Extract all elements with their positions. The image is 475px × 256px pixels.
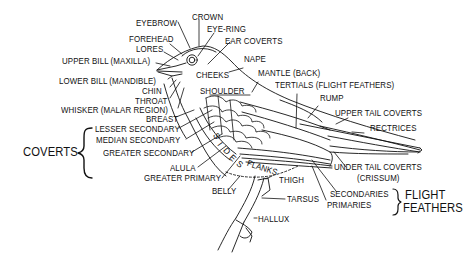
label-crown: CROWN [192, 12, 223, 22]
label-upper-bill: UPPER BILL (MAXILLA) [62, 56, 150, 66]
label-upper-tail-coverts: UPPER TAIL COVERTS [335, 108, 422, 118]
lower-bill [158, 72, 182, 76]
label-lesser-secondary: LESSER SECONDARY [95, 124, 180, 134]
label-breast: BREAST [146, 114, 178, 124]
group-label-feathers: FEATHERS [403, 202, 463, 215]
label-eye-ring: EYE-RING [207, 24, 246, 34]
label-greater-secondary: GREATER SECONDARY [103, 148, 194, 158]
label-thigh: THIGH [279, 175, 304, 185]
label-ear-coverts: EAR COVERTS [225, 36, 283, 46]
label-lower-bill: LOWER BILL (MANDIBLE) [59, 76, 156, 86]
label-crissum: (CRISSUM) [357, 173, 400, 183]
label-tarsus: TARSUS [287, 194, 319, 204]
label-secondaries: SECONDARIES [330, 189, 389, 199]
label-rump: RUMP [320, 93, 344, 103]
label-under-tail-coverts: UNDER TAIL COVERTS [334, 162, 422, 172]
group-label-coverts: COVERTS [23, 146, 78, 159]
flight-feathers-brace [393, 189, 401, 215]
label-nape: NAPE [244, 54, 266, 64]
bird-topography-diagram: EYEBROW CROWN EYE-RING FOREHEAD EAR COVE… [0, 0, 475, 256]
label-tertials: TERTIALS (FLIGHT FEATHERS) [275, 80, 394, 90]
label-lores: LORES [136, 44, 163, 54]
label-mantle: MANTLE (BACK) [258, 68, 320, 78]
label-shoulder: SHOULDER [200, 86, 245, 96]
label-forehead: FOREHEAD [129, 34, 174, 44]
label-greater-primary: GREATER PRIMARY [144, 173, 221, 183]
label-rectrices: RECTRICES [370, 123, 417, 133]
label-cheeks: CHEEKS [196, 70, 229, 80]
label-chin: CHIN [142, 86, 162, 96]
label-belly: BELLY [212, 186, 236, 196]
label-hallux: HALLUX [258, 214, 289, 224]
label-primaries: PRIMARIES [327, 200, 371, 210]
label-median-secondary: MEDIAN SECONDARY [96, 135, 180, 145]
label-alula: ALULA [170, 163, 196, 173]
label-eyebrow: EYEBROW [136, 18, 177, 28]
eye-ring-shape [187, 55, 197, 65]
coverts-brace [78, 128, 92, 178]
